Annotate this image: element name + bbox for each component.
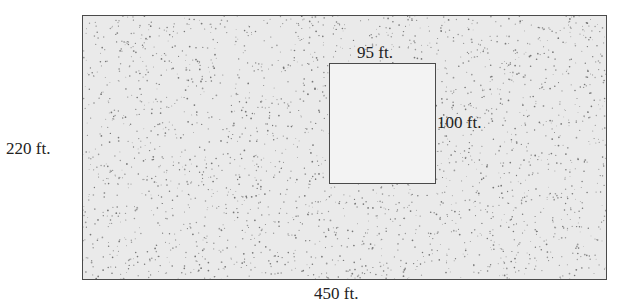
inner-height-label: 100 ft.	[437, 114, 481, 131]
outer-height-label: 220 ft.	[6, 140, 50, 157]
outer-width-label: 450 ft.	[314, 285, 358, 302]
inner-rectangle	[329, 63, 436, 184]
inner-width-label: 95 ft.	[357, 44, 393, 61]
